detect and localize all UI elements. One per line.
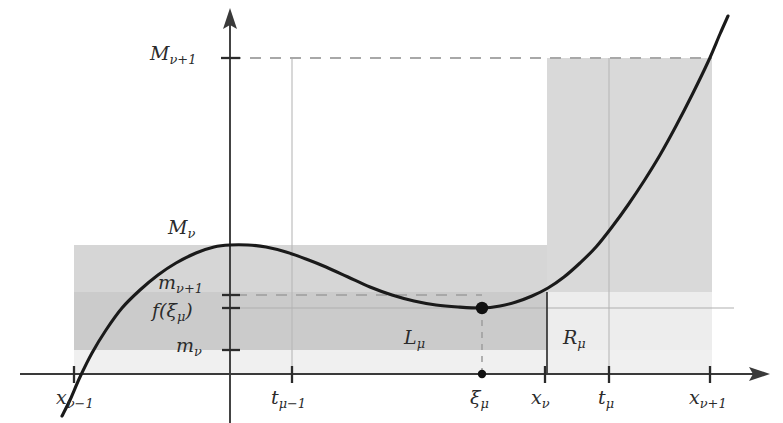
figure-canvas xyxy=(0,0,783,423)
y-label-M-nu: Mν xyxy=(168,218,195,241)
x-label-xi-mu: ξμ xyxy=(470,388,489,411)
x-label-t-mu: tμ xyxy=(598,388,614,411)
x-label-t-mu-minus-1: tμ−1 xyxy=(271,388,306,411)
marked-point-xi-mu-on-axis xyxy=(478,370,486,378)
x-label-x-nu-plus-1: xν+1 xyxy=(689,388,727,411)
shaded-rect-lower-band xyxy=(74,350,712,374)
y-label-m-nu: mν xyxy=(176,336,202,359)
region-label-L-mu: Lμ xyxy=(404,328,425,351)
math-figure-darboux-sums: Mν+1 Mν mν+1 f(ξμ) mν xν−1 tμ−1 ξμ xν tμ… xyxy=(0,0,783,423)
shaded-rect-mid-band xyxy=(74,292,547,350)
region-label-R-mu: Rμ xyxy=(563,328,586,351)
y-label-M-nu-plus-1: Mν+1 xyxy=(150,44,196,67)
marked-point-on-curve xyxy=(476,302,488,314)
y-label-f-xi-mu: f(ξμ) xyxy=(152,301,193,324)
x-label-x-nu-minus-1: xν−1 xyxy=(56,388,94,411)
shaded-rect-tall-column-right xyxy=(547,58,712,292)
x-label-x-nu: xν xyxy=(531,388,550,411)
y-label-m-nu-plus-1: mν+1 xyxy=(158,273,203,296)
